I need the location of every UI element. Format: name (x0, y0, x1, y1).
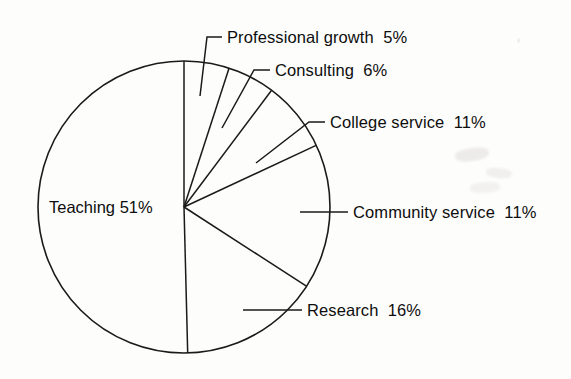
leader-line-consulting (222, 70, 270, 128)
pie-spoke-consulting-end (184, 90, 272, 207)
leader-line-professional-growth (200, 37, 222, 96)
slice-label-research: Research 16% (307, 302, 421, 319)
pie-spoke-research-end (184, 207, 188, 353)
pie-chart-figure: Professional growth 5% Consulting 6% Col… (0, 0, 571, 379)
slice-label-community-service: Community service 11% (353, 204, 536, 221)
slice-label-college-service: College service 11% (330, 114, 486, 131)
pie-spoke-community-service-end (184, 207, 306, 286)
pie-chart-svg (0, 0, 571, 379)
pie-spoke-professional-growth-end (184, 68, 229, 207)
slice-label-consulting: Consulting 6% (275, 62, 387, 79)
pie-spoke-college-service-end (184, 145, 316, 207)
slice-label-professional-growth: Professional growth 5% (227, 29, 407, 46)
slice-label-teaching: Teaching 51% (49, 199, 153, 216)
